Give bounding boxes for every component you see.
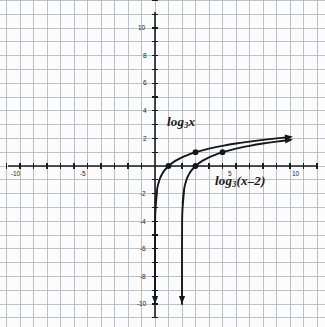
data-point-dot [220,149,226,155]
curve-label-log3x-arg: x [188,114,195,129]
graph-figure: log3x log3(x–2) -10-5510108642-2-4-6-8-1… [0,0,325,327]
data-point-dot [193,163,199,169]
curve-label-log3x: log3x [167,114,195,130]
curve-label-log3x-minus-2: log3(x–2) [215,173,266,189]
axis-tick-label: 8 [143,52,147,59]
axis-tick-label: 10 [138,24,145,31]
data-point-dot [166,163,172,169]
axis-tick-label: 2 [143,135,147,142]
axis-tick-label: 4 [143,107,147,114]
axis-tick-label: -5 [80,170,86,177]
axis-tick-label: 5 [228,170,232,177]
axis-tick-label: 6 [143,79,147,86]
curve-label-log3x-base: log [167,114,184,129]
coordinate-plane [0,0,325,327]
axis-tick-label: -4 [140,218,146,225]
curve-label-log3x-minus-2-arg: (x–2) [236,173,265,188]
axis-tick-label: 10 [292,170,299,177]
axis-tick-label: -2 [140,190,146,197]
axis-tick-label: -10 [11,170,20,177]
axis-tick-label: -10 [137,300,146,307]
axis-tick-label: -8 [140,273,146,280]
axis-tick-label: -6 [140,245,146,252]
data-point-dot [193,149,199,155]
